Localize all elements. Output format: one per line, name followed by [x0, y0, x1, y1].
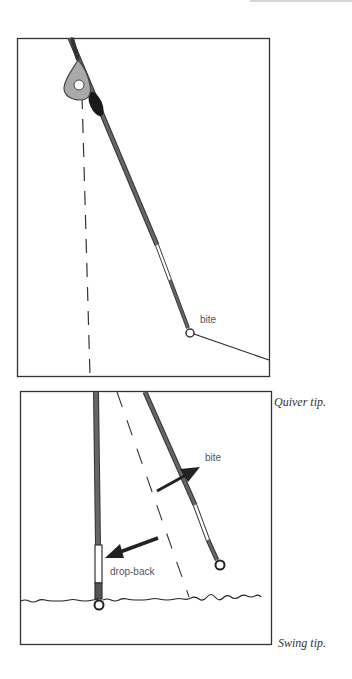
quiver-tip-panel: bite [18, 38, 270, 377]
swing-tip-angled [145, 392, 217, 560]
swing-tip-vertical [95, 392, 102, 599]
rest-position-dashed-line [82, 95, 90, 376]
panel-frame [21, 392, 272, 645]
drop-back-label: drop-back [110, 566, 155, 577]
swing-bite-label: bite [205, 452, 222, 463]
quiver-tip-caption: Quiver tip. [274, 395, 326, 409]
quiver-bite-label: bite [200, 314, 217, 325]
swing-tip-panel: bite drop-back [21, 392, 272, 645]
swing-tip-caption: Swing tip. [278, 636, 326, 650]
fishing-line [194, 334, 269, 360]
water-surface-line [21, 595, 261, 603]
swing-tip-ring-icon [95, 601, 104, 610]
angled-tip-ring-icon [216, 561, 225, 570]
drop-back-arrow-icon [105, 538, 158, 558]
tip-ring-icon [186, 329, 194, 337]
fishing-bite-indicator-diagram: bite Quiver tip. bite [0, 0, 352, 679]
clip-hole [74, 80, 84, 90]
